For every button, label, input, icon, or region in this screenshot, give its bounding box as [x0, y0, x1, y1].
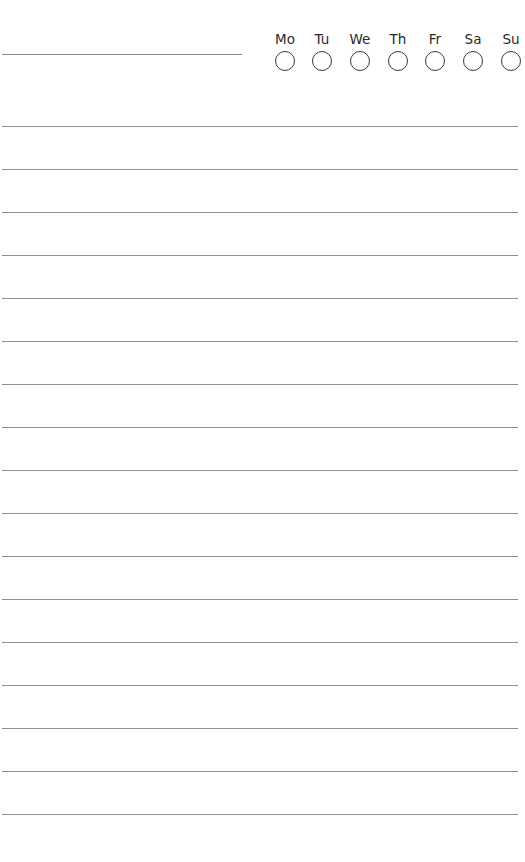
day-friday: Fr — [420, 31, 450, 71]
day-label: Th — [383, 31, 413, 49]
day-label: Su — [496, 31, 525, 49]
week-day-tracker: Mo Tu We Th Fr Sa Su — [270, 31, 525, 81]
ruled-line[interactable] — [2, 126, 518, 127]
ruled-line[interactable] — [2, 470, 518, 471]
ruled-line[interactable] — [2, 255, 518, 256]
ruled-line[interactable] — [2, 728, 518, 729]
ruled-line[interactable] — [2, 341, 518, 342]
day-label: We — [345, 31, 375, 49]
day-sunday: Su — [496, 31, 525, 71]
day-wednesday: We — [345, 31, 375, 71]
day-label: Sa — [458, 31, 488, 49]
day-checkbox-circle-icon[interactable] — [425, 51, 445, 71]
day-checkbox-circle-icon[interactable] — [501, 51, 521, 71]
day-monday: Mo — [270, 31, 300, 71]
ruled-line[interactable] — [2, 771, 518, 772]
ruled-line[interactable] — [2, 814, 518, 815]
ruled-line[interactable] — [2, 384, 518, 385]
title-line[interactable] — [2, 54, 242, 55]
ruled-line[interactable] — [2, 169, 518, 170]
day-label: Fr — [420, 31, 450, 49]
day-checkbox-circle-icon[interactable] — [350, 51, 370, 71]
ruled-line[interactable] — [2, 599, 518, 600]
ruled-line[interactable] — [2, 556, 518, 557]
day-saturday: Sa — [458, 31, 488, 71]
day-tuesday: Tu — [307, 31, 337, 71]
ruled-line[interactable] — [2, 685, 518, 686]
day-label: Mo — [270, 31, 300, 49]
ruled-line[interactable] — [2, 513, 518, 514]
day-thursday: Th — [383, 31, 413, 71]
day-label: Tu — [307, 31, 337, 49]
day-checkbox-circle-icon[interactable] — [275, 51, 295, 71]
ruled-line[interactable] — [2, 642, 518, 643]
ruled-line[interactable] — [2, 212, 518, 213]
ruled-line[interactable] — [2, 298, 518, 299]
day-checkbox-circle-icon[interactable] — [463, 51, 483, 71]
day-checkbox-circle-icon[interactable] — [312, 51, 332, 71]
ruled-line[interactable] — [2, 427, 518, 428]
day-checkbox-circle-icon[interactable] — [388, 51, 408, 71]
